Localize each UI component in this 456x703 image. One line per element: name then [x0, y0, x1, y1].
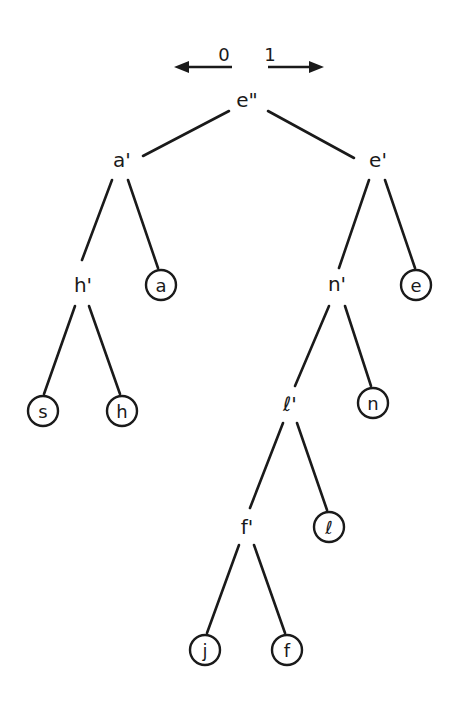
bit-one-label: 1 [264, 44, 275, 65]
edge-root-a-prime [143, 111, 229, 156]
internal-nodes: e" a' e' h' n' ℓ' f' [74, 88, 387, 539]
edge-e-prime-e [385, 180, 415, 268]
leaf-f-label: f [284, 640, 291, 661]
tree-edges [44, 111, 415, 633]
edge-f-prime-j [207, 545, 239, 633]
leaf-n: n [358, 388, 388, 418]
node-n-prime: n' [328, 272, 346, 296]
leaf-l: ℓ [314, 512, 344, 542]
edge-l-prime-f-prime [250, 423, 283, 508]
edge-a-prime-h-prime [82, 180, 112, 260]
edge-h-prime-s [44, 306, 75, 394]
edge-f-prime-f [254, 545, 285, 633]
node-root-e-double-prime: e" [236, 88, 258, 112]
leaf-j-label: j [201, 640, 207, 661]
leaf-a-label: a [155, 275, 166, 296]
edge-root-e-prime [268, 111, 354, 158]
edge-n-prime-l-prime [295, 306, 329, 386]
edge-l-prime-l [297, 423, 327, 510]
leaf-nodes: a e s h n ℓ j f [28, 270, 431, 665]
code-tree-diagram: 0 1 e" a' e' h' n' ℓ' f' [0, 0, 456, 703]
node-a-prime: a' [113, 148, 131, 172]
edge-h-prime-h [89, 306, 120, 394]
leaf-n-label: n [367, 393, 378, 414]
leaf-l-label: ℓ [324, 517, 332, 538]
leaf-s-label: s [38, 401, 47, 422]
edge-e-prime-n-prime [339, 180, 369, 268]
leaf-j: j [190, 635, 220, 665]
right-arrow-icon [268, 61, 324, 73]
leaf-h-label: h [116, 401, 127, 422]
leaf-s: s [28, 396, 58, 426]
node-e-prime: e' [369, 148, 387, 172]
leaf-e-label: e [410, 275, 421, 296]
leaf-f: f [272, 635, 302, 665]
bit-zero-label: 0 [218, 44, 229, 65]
leaf-h: h [107, 396, 137, 426]
leaf-a: a [146, 270, 176, 300]
leaf-e: e [401, 270, 431, 300]
edge-n-prime-n [345, 306, 371, 386]
edge-a-prime-a [128, 180, 158, 268]
direction-legend: 0 1 [174, 44, 324, 73]
node-f-prime: f' [241, 515, 254, 539]
node-h-prime: h' [74, 273, 92, 297]
node-l-prime: ℓ' [282, 392, 297, 416]
